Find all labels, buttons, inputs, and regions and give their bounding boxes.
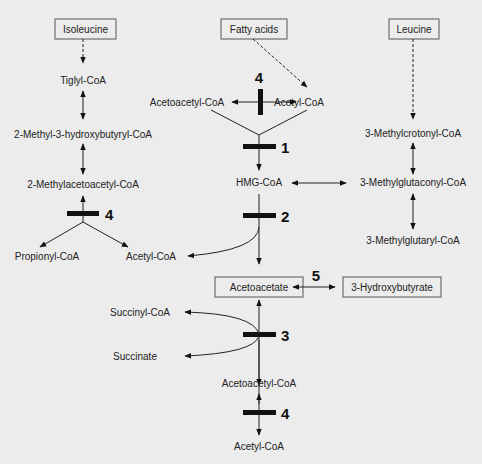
arrow-to-succinate <box>185 336 259 356</box>
leucine-label: Leucine <box>396 24 431 35</box>
fatty-acids-label: Fatty acids <box>230 24 278 35</box>
hydroxybutyrate-box: 3-Hydroxybutyrate <box>343 277 441 297</box>
converge-line-right <box>259 110 307 135</box>
enzyme-step-4-bottom: 4 <box>281 405 290 422</box>
arrow-to-propionyl <box>40 222 83 247</box>
succinyl-coa-label: Succinyl-CoA <box>110 307 170 318</box>
acetyl-coa-bottom-label: Acetyl-CoA <box>234 441 284 452</box>
enzyme-block-bar <box>243 332 276 337</box>
methylcrotonyl-coa-label: 3-Methylcrotonyl-CoA <box>365 128 461 139</box>
arrow-to-succinyl <box>185 312 259 334</box>
acetoacetate-label: Acetoacetate <box>230 282 289 293</box>
fatty-acids-box: Fatty acids <box>221 19 287 39</box>
acetoacetyl-coa-top-label: Acetoacetyl-CoA <box>150 97 225 108</box>
enzyme-block-bar <box>243 213 276 218</box>
acetoacetyl-coa-bottom-label: Acetoacetyl-CoA <box>222 378 297 389</box>
methylglutaryl-coa-label: 3-Methylglutaryl-CoA <box>366 235 460 246</box>
methylacetoacetyl-coa-label: 2-Methylacetoacetyl-CoA <box>27 179 139 190</box>
enzyme-step-3: 3 <box>281 327 289 344</box>
propionyl-coa-label: Propionyl-CoA <box>15 251 80 262</box>
succinate-label: Succinate <box>113 351 157 362</box>
hmg-coa-label: HMG-CoA <box>236 177 282 188</box>
enzyme-block-bar <box>258 89 263 115</box>
isoleucine-box: Isoleucine <box>55 19 116 39</box>
converge-line-left <box>211 110 259 135</box>
arrow-to-acetyl-mid <box>188 227 259 256</box>
pathway-diagram: Isoleucine Fatty acids Leucine Tiglyl-Co… <box>0 0 482 464</box>
acetyl-coa-label: Acetyl-CoA <box>126 251 176 262</box>
tiglyl-coa-label: Tiglyl-CoA <box>60 75 106 86</box>
enzyme-step-4-top: 4 <box>255 69 264 86</box>
hydroxybutyryl-coa-label: 2-Methyl-3-hydroxybutyryl-CoA <box>14 129 152 140</box>
leucine-box: Leucine <box>389 19 439 39</box>
enzyme-block-bar <box>67 211 99 216</box>
hydroxybutyrate-label: 3-Hydroxybutyrate <box>351 282 433 293</box>
acetoacetate-box: Acetoacetate <box>215 277 303 297</box>
enzyme-step-2: 2 <box>281 208 289 225</box>
enzyme-block-bar <box>243 144 276 149</box>
enzyme-block-bar <box>243 410 276 415</box>
arrow-to-acetyl <box>83 222 128 247</box>
enzyme-step-5: 5 <box>312 267 320 284</box>
methylglutaconyl-coa-label: 3-Methylglutaconyl-CoA <box>360 177 466 188</box>
isoleucine-label: Isoleucine <box>63 24 108 35</box>
enzyme-step-4-left: 4 <box>105 206 114 223</box>
enzyme-step-1: 1 <box>281 139 289 156</box>
